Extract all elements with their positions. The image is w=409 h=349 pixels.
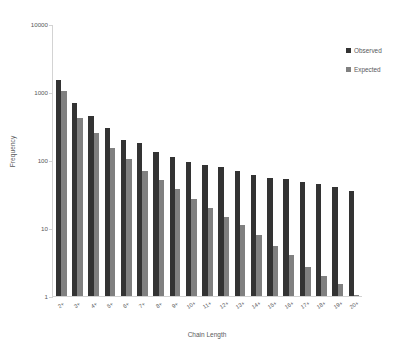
x-axis-tick-label: 13+ [232, 298, 249, 312]
bar-expected[interactable] [61, 91, 66, 296]
x-axis-tick-label: 8+ [150, 298, 167, 312]
bar-expected[interactable] [289, 255, 294, 296]
legend-label-observed: Observed [354, 47, 382, 54]
bar-group [183, 25, 199, 296]
bar-group [313, 25, 329, 296]
bar-group [118, 25, 134, 296]
x-axis-tick-label: 7+ [134, 298, 151, 312]
bar-expected[interactable] [191, 199, 196, 296]
y-axis-tick-mark [49, 297, 53, 298]
plot-area: 100001000100101 [52, 25, 362, 297]
y-axis-title: Frequency [9, 117, 16, 187]
x-axis-tick-label: 12+ [215, 298, 232, 312]
bar-expected[interactable] [94, 133, 99, 296]
y-axis-tick-label: 1000 [6, 90, 48, 96]
bar-group [86, 25, 102, 296]
x-axis-tick-label: 20+ [345, 298, 362, 312]
bar-group [330, 25, 346, 296]
x-axis-tick-labels: 2+3+4+5+6+7+8+9+10+11+12+13+14+15+16+17+… [53, 302, 362, 308]
expected-swatch-icon [346, 67, 351, 72]
bar-group [248, 25, 264, 296]
bar-expected[interactable] [208, 208, 213, 296]
legend-item-expected[interactable]: Expected [346, 66, 382, 73]
x-axis-tick-label: 19+ [329, 298, 346, 312]
x-axis-title: Chain Length [52, 331, 362, 338]
y-axis-tick-label: 10 [6, 226, 48, 232]
x-axis-tick-label: 16+ [280, 298, 297, 312]
bar-expected[interactable] [142, 171, 147, 296]
bar-expected[interactable] [338, 284, 343, 296]
x-axis-line [52, 296, 362, 297]
legend-item-observed[interactable]: Observed [346, 47, 382, 54]
bar-expected[interactable] [321, 276, 326, 296]
bar-group [216, 25, 232, 296]
y-axis-tick-label: 100 [6, 158, 48, 164]
x-axis-tick-label: 4+ [85, 298, 102, 312]
bar-expected[interactable] [77, 118, 82, 296]
bar-observed[interactable] [332, 187, 337, 296]
x-axis-tick-label: 11+ [199, 298, 216, 312]
bar-group [199, 25, 215, 296]
y-axis-tick-label: 10000 [6, 22, 48, 28]
bar-chart: Frequency 100001000100101 2+3+4+5+6+7+8+… [0, 0, 409, 349]
bar-groups [53, 25, 362, 296]
bar-observed[interactable] [349, 191, 354, 296]
x-axis-tick-label: 10+ [183, 298, 200, 312]
bar-group [264, 25, 280, 296]
bar-expected[interactable] [240, 225, 245, 296]
bar-group [297, 25, 313, 296]
bar-group [69, 25, 85, 296]
bar-group [167, 25, 183, 296]
bar-expected[interactable] [305, 267, 310, 296]
x-axis-tick-label: 14+ [248, 298, 265, 312]
bar-expected[interactable] [256, 235, 261, 296]
x-axis-tick-label: 3+ [69, 298, 86, 312]
bar-group [232, 25, 248, 296]
x-axis-tick-label: 6+ [118, 298, 135, 312]
bar-expected[interactable] [224, 217, 229, 296]
bar-expected[interactable] [159, 180, 164, 296]
y-axis-tick-label: 1 [6, 294, 48, 300]
x-axis-tick-label: 5+ [101, 298, 118, 312]
bar-expected[interactable] [126, 159, 131, 296]
x-axis-tick-label: 2+ [53, 298, 70, 312]
bar-group [102, 25, 118, 296]
x-axis-tick-label: 18+ [313, 298, 330, 312]
observed-swatch-icon [346, 48, 351, 53]
chart-legend: Observed Expected [346, 47, 382, 85]
bar-group [151, 25, 167, 296]
bar-expected[interactable] [110, 148, 115, 296]
bar-group [281, 25, 297, 296]
x-axis-tick-label: 17+ [297, 298, 314, 312]
bar-group [134, 25, 150, 296]
bar-expected[interactable] [273, 246, 278, 296]
x-axis-tick-label: 9+ [167, 298, 184, 312]
x-axis-tick-label: 15+ [264, 298, 281, 312]
bar-expected[interactable] [175, 189, 180, 296]
bar-expected[interactable] [354, 295, 359, 296]
bar-group [53, 25, 69, 296]
legend-label-expected: Expected [354, 66, 381, 73]
